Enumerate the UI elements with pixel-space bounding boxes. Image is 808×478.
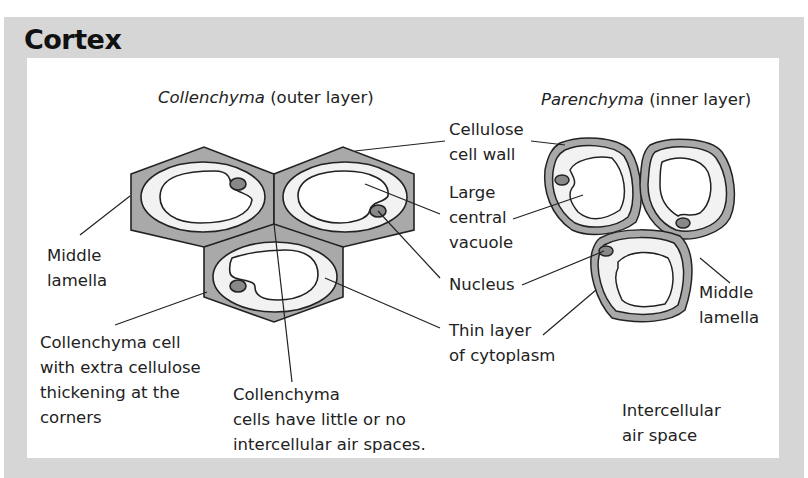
label-intercellular-air-space: Intercellularair space [622, 398, 721, 448]
label-cellulose-cell-wall: Cellulosecell wall [449, 117, 524, 167]
label-collenchyma-cell: Collenchyma cellwith extra cellulosethic… [40, 330, 201, 430]
parenchyma-heading: Parenchyma (inner layer) [541, 87, 751, 112]
label-nucleus: Nucleus [449, 272, 515, 297]
label-air-spaces-note: Collenchymacells have little or nointerc… [233, 382, 426, 457]
label-middle-lamella-right: Middlelamella [699, 280, 759, 330]
label-thin-layer-cytoplasm: Thin layerof cytoplasm [449, 318, 555, 368]
collenchyma-heading: Collenchyma (outer layer) [158, 85, 374, 110]
label-large-central-vacuole: Largecentralvacuole [449, 180, 513, 255]
collenchyma-cells [131, 147, 414, 322]
label-middle-lamella-left: Middlelamella [47, 243, 107, 293]
